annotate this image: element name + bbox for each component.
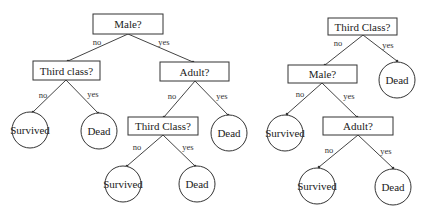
edge-thirdclass-no [325, 35, 363, 65]
edges [32, 34, 230, 167]
leaf-node-survived: Survived [297, 168, 337, 204]
edge-label-yes: yes [158, 37, 169, 47]
node-label: Third Class? [135, 120, 191, 132]
edge-labels: no yes no yes no yes [296, 38, 394, 156]
tree-left: no yes no yes no yes no yes Male? Third … [10, 14, 247, 202]
leaf-node-dead: Dead [179, 166, 215, 202]
tree-right: no yes no yes no yes Third Class? Male? … [265, 18, 415, 205]
edge-label-no: no [334, 38, 343, 48]
decision-tree-diagram: no yes no yes no yes no yes Male? Third … [0, 0, 428, 216]
edge-label-no: no [133, 142, 142, 152]
node-label: Adult? [180, 66, 210, 78]
node-label: Male? [114, 18, 142, 30]
decision-node-male: Male? [288, 65, 357, 83]
decision-node-adult: Adult? [160, 62, 229, 81]
leaf-node-dead: Dead [375, 169, 411, 205]
node-label: Adult? [343, 120, 373, 132]
edge-male-no [287, 83, 322, 114]
node-label: Male? [309, 68, 337, 80]
edge-label-yes: yes [382, 40, 393, 50]
node-label: Dead [381, 181, 405, 193]
decision-node-male: Male? [93, 14, 163, 34]
leaf-node-dead: Dead [81, 113, 117, 149]
leaf-node-dead: Dead [211, 115, 247, 151]
edge-label-yes: yes [216, 91, 227, 101]
node-label: Survived [265, 127, 305, 139]
decision-node-third-class-2: Third Class? [128, 117, 198, 135]
edge-label-no: no [93, 37, 102, 47]
node-label: Survived [10, 124, 50, 136]
node-label: Survived [103, 178, 143, 190]
leaf-node-survived: Survived [265, 115, 305, 151]
edge-label-yes: yes [380, 146, 391, 156]
edge-label-no: no [325, 145, 334, 155]
edge-label-yes: yes [87, 89, 98, 99]
node-label: Survived [297, 180, 337, 192]
leaf-node-dead: Dead [379, 62, 415, 98]
edge-label-no: no [168, 91, 177, 101]
node-label: Third class? [40, 65, 94, 77]
decision-node-adult: Adult? [323, 117, 393, 135]
decision-node-third-class: Third class? [33, 61, 100, 80]
edge-label-yes: yes [182, 142, 193, 152]
edge-label-yes: yes [343, 91, 354, 101]
node-label: Third Class? [335, 21, 391, 33]
edge-label-no: no [296, 89, 305, 99]
node-label: Dead [385, 74, 409, 86]
node-label: Dead [185, 178, 209, 190]
leaf-node-survived: Survived [10, 112, 50, 148]
node-label: Dead [217, 127, 241, 139]
edge-label-no: no [39, 90, 48, 100]
leaf-node-survived: Survived [103, 166, 143, 202]
decision-node-third-class: Third Class? [328, 18, 397, 35]
node-label: Dead [87, 125, 111, 137]
